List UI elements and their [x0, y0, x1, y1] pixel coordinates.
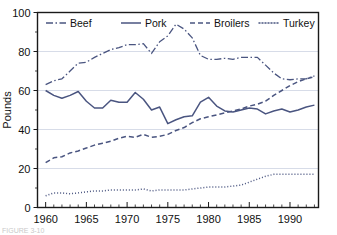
y-tick-label: 60: [18, 85, 30, 97]
chart-background: [0, 0, 337, 235]
x-tick-label: 1980: [196, 213, 220, 225]
x-tick-label: 1990: [278, 213, 302, 225]
legend-label-turkey: Turkey: [283, 17, 315, 29]
legend-label-pork: Pork: [145, 17, 167, 29]
y-tick-label: 0: [24, 202, 30, 214]
legend-label-broilers: Broilers: [214, 17, 250, 29]
line-chart: 0204060801001960196519701975198019851990…: [0, 0, 337, 235]
chart-canvas: 0204060801001960196519701975198019851990…: [0, 0, 337, 235]
x-tick-label: 1965: [74, 213, 98, 225]
y-tick-label: 80: [18, 46, 30, 58]
y-tick-label: 20: [18, 163, 30, 175]
x-tick-label: 1970: [115, 213, 139, 225]
y-axis-title: Pounds: [1, 91, 13, 129]
y-tick-label: 40: [18, 124, 30, 136]
x-tick-label: 1975: [156, 213, 180, 225]
figure-caption: FIGURE 3-10: [2, 227, 45, 234]
legend-label-beef: Beef: [70, 17, 92, 29]
x-tick-label: 1985: [237, 213, 261, 225]
y-tick-label: 100: [12, 7, 30, 19]
x-tick-label: 1960: [33, 213, 57, 225]
